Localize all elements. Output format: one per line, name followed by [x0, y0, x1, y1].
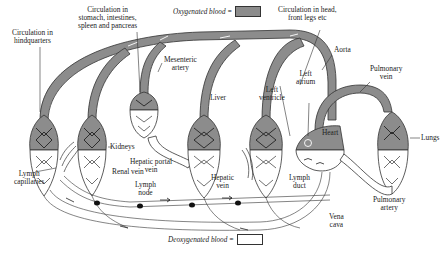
label-liver: Liver — [210, 94, 226, 102]
label-line: Lungs — [421, 134, 439, 142]
bed-kidneys — [78, 115, 107, 196]
hepatic-vein — [204, 198, 240, 230]
bed-gut — [130, 92, 158, 138]
label-kidneys: Kidneys — [110, 143, 135, 151]
label-renal-vein: Renal vein — [112, 168, 144, 176]
legend-oxygenated: Oxygenated blood = — [173, 6, 261, 17]
label-line: capillaries — [14, 178, 44, 186]
label-line: front legs etc — [278, 14, 337, 22]
label-line: vein — [370, 73, 402, 81]
label-line: Heart — [322, 129, 338, 137]
label-line: vein — [211, 182, 234, 190]
label-hepatic-vein: Hepatic vein — [211, 174, 234, 190]
label-line: hindquarters — [12, 37, 53, 45]
pulmonary-vein — [315, 85, 392, 130]
label-line: ventricle — [259, 94, 285, 102]
liver-artery — [200, 40, 240, 120]
label-lymph-duct: Lymph duct — [289, 174, 310, 190]
label-head: Circulation in head, front legs etc — [278, 6, 337, 22]
label-pulmonary-artery: Pulmonary artery — [373, 196, 405, 212]
legend-deoxygenated: Deoxygenated blood = — [168, 234, 263, 245]
label-line: Renal vein — [112, 168, 144, 176]
label-pulmonary-vein: Pulmonary vein — [370, 65, 402, 81]
label-lymph-node: Lymph node — [135, 181, 156, 197]
label-line: spleen and pancreas — [78, 22, 137, 30]
label-line: Kidneys — [110, 143, 135, 151]
label-lymph-capillaries: Lymph capillaries — [14, 170, 44, 186]
mesenteric-artery — [140, 42, 166, 95]
label-heart: Heart — [322, 129, 338, 137]
label-gut: Circulation in stomach, intestines, sple… — [78, 6, 137, 31]
label-vena-cava: Vena cava — [329, 213, 344, 229]
label-line: Liver — [210, 94, 226, 102]
legend-deoxygenated-label: Deoxygenated blood = — [168, 236, 234, 244]
circulation-diagram — [0, 0, 447, 256]
label-aorta: Aorta — [334, 46, 351, 54]
label-line: duct — [289, 182, 310, 190]
label-line: artery — [164, 64, 197, 72]
legend-oxygenated-label: Oxygenated blood = — [173, 8, 232, 16]
lymph-capillaries — [60, 142, 78, 172]
lymph-node — [94, 201, 100, 206]
label-line: cava — [329, 221, 344, 229]
label-left-atrium: Left atrium — [296, 70, 315, 86]
deoxygenated-swatch — [237, 234, 263, 245]
label-line: atrium — [296, 78, 315, 86]
label-line: artery — [373, 204, 405, 212]
label-line: Aorta — [334, 46, 351, 54]
bed-head — [250, 115, 283, 198]
oxygenated-swatch — [235, 6, 261, 17]
label-line: node — [135, 189, 156, 197]
bed-lungs — [378, 112, 409, 194]
label-hindquarters: Circulation in hindquarters — [12, 29, 53, 45]
label-mesenteric-artery: Mesenteric artery — [164, 56, 197, 72]
label-left-ventricle: Left ventricle — [259, 86, 285, 102]
label-lungs: Lungs — [421, 134, 439, 142]
